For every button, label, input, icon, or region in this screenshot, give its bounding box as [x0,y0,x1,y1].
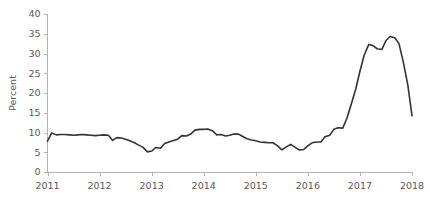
y-tick-label: 20 [28,87,40,98]
data-series-line [48,37,413,152]
x-tick-label: 2017 [348,180,372,191]
x-axis-ticks: 20112012201320142015201620172018 [35,172,424,191]
y-tick-label: 10 [28,127,40,138]
y-axis-ticks: 0510152025303540 [28,8,47,177]
line-chart: 0510152025303540 20112012201320142015201… [0,0,430,204]
x-tick-label: 2016 [296,180,320,191]
y-tick-label: 35 [28,28,40,39]
x-tick-label: 2013 [140,180,164,191]
y-tick-label: 15 [28,107,40,118]
x-axis: 20112012201320142015201620172018 [35,172,424,191]
x-tick-label: 2014 [192,180,216,191]
chart-canvas: 0510152025303540 20112012201320142015201… [0,0,430,204]
y-axis-title: Percent [7,75,18,111]
y-tick-label: 0 [34,166,40,177]
y-tick-label: 40 [28,8,40,19]
y-tick-label: 25 [28,68,40,79]
x-tick-label: 2018 [400,180,424,191]
x-tick-label: 2011 [35,180,59,191]
x-tick-label: 2015 [244,180,268,191]
x-tick-label: 2012 [87,180,111,191]
y-tick-label: 30 [28,48,40,59]
y-axis: 0510152025303540 [28,8,47,177]
y-tick-label: 5 [34,147,40,158]
